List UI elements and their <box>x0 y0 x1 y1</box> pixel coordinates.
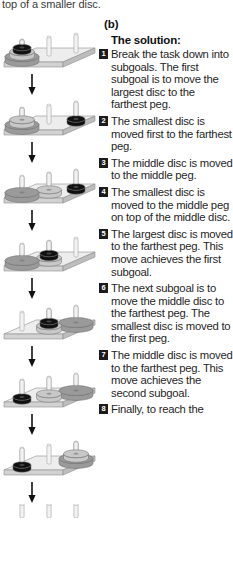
hanoi-state-after-move-6 <box>0 436 99 504</box>
step-text: The smallest disc is moved first to the … <box>111 115 233 153</box>
hanoi-state-start <box>0 28 99 96</box>
step-number-badge: 4 <box>99 187 108 197</box>
hanoi-board <box>0 504 99 518</box>
hanoi-board <box>0 300 99 346</box>
hanoi-state-final-clipped <box>0 504 99 518</box>
hanoi-diagram-sequence <box>0 28 99 518</box>
hanoi-board-svg-clipped <box>0 504 99 518</box>
down-arrow-svg-2 <box>0 210 99 232</box>
step-text: The middle disc is moved to the farthest… <box>111 349 233 399</box>
down-arrow-icon <box>0 346 99 368</box>
hanoi-board <box>0 232 99 278</box>
hanoi-state-after-move-5 <box>0 368 99 436</box>
solution-step: 3The middle disc is moved to the middle … <box>99 157 233 182</box>
down-arrow-svg-5 <box>0 414 99 436</box>
top-caption-region: top of a smaller disc. <box>0 0 233 12</box>
down-arrow-svg-3 <box>0 278 99 300</box>
solution-step: 4The smallest disc is moved to the middl… <box>99 186 233 224</box>
hanoi-board-svg-0 <box>0 28 99 74</box>
hanoi-board-svg-1 <box>0 96 99 142</box>
hanoi-board-svg-6 <box>0 436 99 482</box>
hanoi-state-after-move-1 <box>0 96 99 164</box>
step-text: The smallest disc is moved to the middle… <box>111 186 233 224</box>
solution-step: 6The next subgoal is to move the middle … <box>99 282 233 345</box>
hanoi-board-svg-2 <box>0 164 99 210</box>
solution-heading: The solution: <box>111 34 233 47</box>
hanoi-board <box>0 28 99 74</box>
solution-step: 8Finally, to reach the <box>99 403 233 416</box>
step-number-badge: 5 <box>99 229 108 239</box>
solution-step: 1Break the task down into subgoals. The … <box>99 48 233 111</box>
down-arrow-svg-1 <box>0 142 99 164</box>
down-arrow-icon <box>0 482 99 504</box>
step-number-badge: 3 <box>99 158 108 168</box>
step-text: The largest disc is moved to the farthes… <box>111 228 233 278</box>
down-arrow-svg-6 <box>0 482 99 504</box>
hanoi-state-after-move-2 <box>0 164 99 232</box>
down-arrow-icon <box>0 142 99 164</box>
down-arrow-svg-4 <box>0 346 99 368</box>
step-text: Break the task down into subgoals. The f… <box>111 48 233 111</box>
step-text: The next subgoal is to move the middle d… <box>111 282 233 345</box>
solution-step: 2The smallest disc is moved first to the… <box>99 115 233 153</box>
hanoi-state-after-move-3 <box>0 232 99 300</box>
down-arrow-icon <box>0 210 99 232</box>
step-number-badge: 7 <box>99 350 108 360</box>
down-arrow-icon <box>0 278 99 300</box>
hanoi-board <box>0 164 99 210</box>
hanoi-board-svg-3 <box>0 232 99 278</box>
step-number-badge: 8 <box>99 404 108 414</box>
panel-label-b: (b) <box>104 18 119 30</box>
hanoi-board-svg-4 <box>0 300 99 346</box>
step-text: The middle disc is moved to the middle p… <box>111 157 233 182</box>
hanoi-board <box>0 368 99 414</box>
top-caption-text: top of a smaller disc. <box>2 0 101 11</box>
step-number-badge: 2 <box>99 116 108 126</box>
step-text: Finally, to reach the <box>111 403 233 416</box>
down-arrow-icon <box>0 414 99 436</box>
step-number-badge: 6 <box>99 283 108 293</box>
solution-step: 5The largest disc is moved to the farthe… <box>99 228 233 278</box>
hanoi-board <box>0 96 99 142</box>
hanoi-board <box>0 436 99 482</box>
solution-steps-list: 1Break the task down into subgoals. The … <box>99 48 233 416</box>
hanoi-state-after-move-4 <box>0 300 99 368</box>
down-arrow-icon <box>0 74 99 96</box>
hanoi-board-svg-5 <box>0 368 99 414</box>
step-number-badge: 1 <box>99 49 108 59</box>
solution-step: 7The middle disc is moved to the farthes… <box>99 349 233 399</box>
solution-steps-panel: The solution: 1Break the task down into … <box>99 34 233 420</box>
down-arrow-svg-0 <box>0 74 99 96</box>
